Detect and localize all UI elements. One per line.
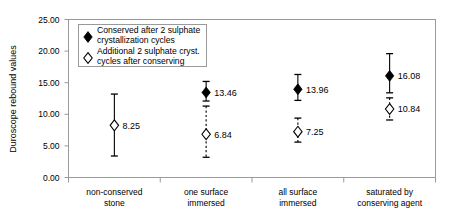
data-point-value-label: 16.08 (398, 71, 421, 81)
y-axis-title-group: Duroscope rebound values (8, 45, 18, 153)
x-category-label: non-conserved (86, 187, 143, 197)
filled-diamond-marker (202, 87, 210, 98)
x-category-label: one surface (184, 187, 229, 197)
chart-legend: Conserved after 2 sulphatecrystallizatio… (79, 25, 207, 67)
x-axis-category-labels: non-conservedstoneone surfaceimmersedall… (86, 187, 422, 208)
filled-diamond-marker (294, 84, 302, 95)
data-point-group: 10.84 (385, 98, 420, 120)
data-point-value-label: 8.25 (122, 121, 140, 131)
y-tick-label: 5.00 (43, 141, 60, 151)
data-point-value-label: 10.84 (398, 104, 421, 114)
chart-container: Duroscope rebound values 0.005.0010.0015… (0, 0, 453, 221)
data-point-group: 16.08 (385, 54, 420, 93)
open-diamond-marker (110, 120, 118, 131)
y-tick-label: 10.00 (38, 109, 60, 119)
legend-entry-label: Additional 2 sulphate cryst. (97, 46, 200, 56)
open-diamond-marker (385, 104, 393, 115)
y-tick-label: 15.00 (38, 78, 60, 88)
data-point-group: 7.25 (294, 118, 324, 142)
data-point-value-label: 13.46 (214, 88, 237, 98)
open-diamond-marker (294, 126, 302, 137)
legend-entry-label: Conserved after 2 sulphate (97, 25, 200, 35)
open-diamond-marker (202, 129, 210, 140)
data-point-group: 13.46 (202, 81, 237, 101)
data-point-group: 6.84 (202, 106, 232, 157)
duroscope-rebound-chart: Duroscope rebound values 0.005.0010.0015… (0, 0, 453, 221)
data-point-group: 8.25 (110, 94, 140, 156)
y-axis-tick-marks (65, 20, 69, 178)
data-point-group: 13.96 (294, 74, 329, 100)
x-category-label: saturated by (366, 187, 414, 197)
x-axis-tick-marks (69, 178, 436, 183)
data-point-value-label: 13.96 (306, 85, 329, 95)
x-category-label: immersed (279, 198, 317, 208)
legend-entries: Conserved after 2 sulphatecrystallizatio… (84, 25, 201, 66)
data-series-layer: 13.4613.9616.088.256.847.2510.84 (110, 54, 420, 158)
filled-diamond-marker (385, 70, 393, 81)
x-category-label: conserving agent (357, 198, 422, 208)
x-category-label: immersed (187, 198, 225, 208)
x-category-label: all surface (279, 187, 318, 197)
y-tick-label: 20.00 (38, 46, 60, 56)
y-tick-label: 25.00 (38, 15, 60, 25)
data-point-value-label: 7.25 (306, 127, 324, 137)
data-point-value-label: 6.84 (214, 130, 232, 140)
y-axis-tick-labels: 0.005.0010.0015.0020.0025.00 (38, 15, 60, 183)
x-category-label: stone (104, 198, 125, 208)
y-axis-title: Duroscope rebound values (8, 45, 18, 153)
legend-entry-label: cycles after conserving (97, 56, 185, 66)
legend-entry-label: crystallization cycles (97, 35, 175, 45)
y-tick-label: 0.00 (43, 173, 60, 183)
